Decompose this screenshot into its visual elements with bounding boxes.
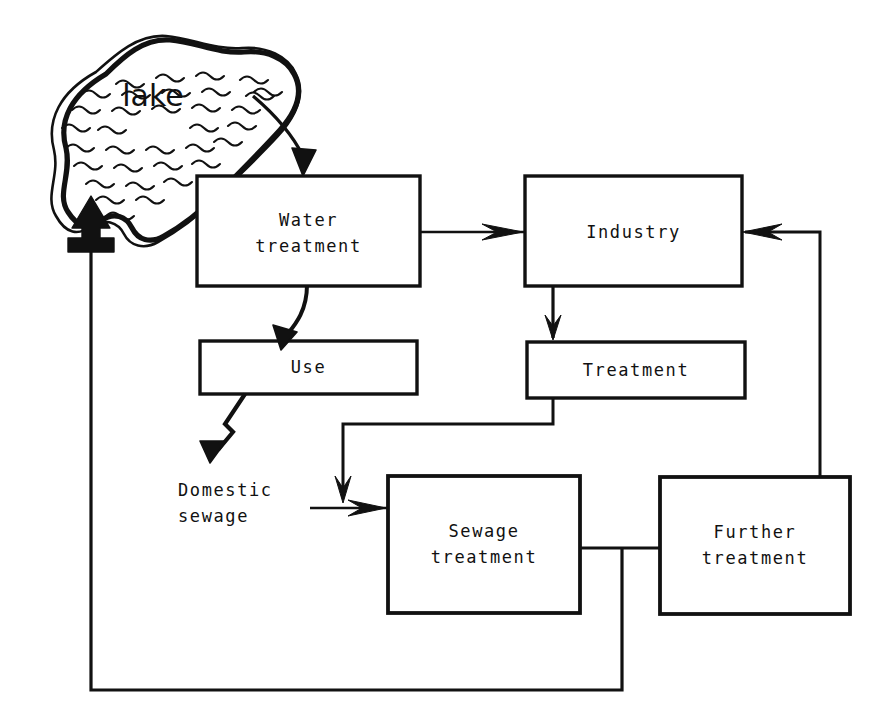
edge-domestic-sewage-to-sewage-treatment [310,500,388,516]
flow-diagram: lake Water treatment Industry Use Treatm… [0,0,883,725]
box-use [200,341,417,394]
box-further-treatment [660,477,850,614]
edge-industry-to-treatment [545,286,561,340]
lake-label: lake [78,78,228,113]
box-sewage-treatment [388,476,580,613]
edge-water-treatment-to-industry [420,224,525,240]
box-treatment [527,342,745,398]
box-water-treatment [197,176,420,286]
box-industry [525,176,742,286]
label-domestic-sewage: Domestic sewage [178,477,273,529]
edge-use-to-domestic-sewage [200,394,245,463]
node-boxes [197,176,850,614]
edge-further-treatment-to-industry [743,224,820,477]
